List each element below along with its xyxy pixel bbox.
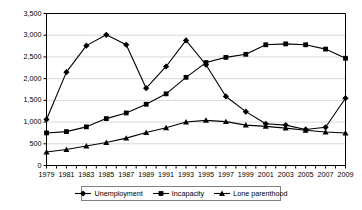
data-point	[184, 75, 189, 80]
y-axis-tick-label: 3,500	[0, 10, 42, 17]
series-unemployment	[43, 32, 348, 133]
legend-item-incapacity[interactable]: Incapacity	[152, 189, 204, 198]
y-axis-tick-label: 1,500	[0, 96, 42, 103]
x-axis-tick-label: 2009	[333, 171, 359, 178]
data-point	[104, 116, 109, 121]
data-point	[84, 124, 89, 129]
y-axis-tick-label: 500	[0, 140, 42, 147]
legend-item-unemployment[interactable]: Unemployment	[74, 189, 142, 198]
data-point	[283, 42, 288, 47]
data-point	[343, 56, 348, 61]
y-axis-tick-label: 2,500	[0, 53, 42, 60]
diamond-marker-icon	[74, 189, 92, 198]
y-axis-tick-label: 2,000	[0, 75, 42, 82]
data-point	[124, 111, 129, 116]
legend-item-label: Lone parenthood	[233, 190, 287, 197]
data-point	[303, 42, 308, 47]
data-point	[103, 32, 109, 38]
data-point	[224, 55, 229, 60]
data-point	[243, 52, 248, 57]
square-marker-icon	[152, 189, 170, 198]
data-point	[164, 91, 169, 96]
legend-item-lone-parenthood[interactable]: Lone parenthood	[213, 189, 287, 198]
data-point	[144, 102, 149, 107]
series-line	[47, 35, 346, 130]
series-lone-parenthood	[44, 117, 349, 154]
data-point	[123, 42, 129, 48]
triangle-marker-icon	[213, 189, 231, 198]
data-point	[64, 129, 69, 134]
legend-item-label: Unemployment	[94, 190, 142, 197]
data-point	[323, 47, 328, 52]
y-axis-tick-label: 1,000	[0, 118, 42, 125]
data-point	[263, 42, 268, 47]
data-point	[204, 60, 209, 65]
chart-plot-area	[0, 0, 362, 210]
line-chart: 05001,0001,5002,0002,5003,0003,500 19791…	[0, 0, 362, 210]
y-axis-tick-label: 3,000	[0, 31, 42, 38]
data-point	[44, 131, 49, 136]
legend-item-label: Incapacity	[172, 190, 204, 197]
y-axis-tick-label: 0	[0, 162, 42, 169]
chart-legend: UnemploymentIncapacityLone parenthood	[81, 186, 281, 201]
